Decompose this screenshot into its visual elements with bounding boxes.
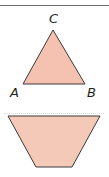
- vertex-label-b: B: [87, 86, 96, 99]
- section-divider: [4, 113, 104, 114]
- trapezoid: [8, 116, 100, 167]
- vertex-label-a: A: [10, 86, 19, 99]
- vertex-label-c: C: [49, 12, 58, 25]
- triangle-abc: [23, 30, 85, 84]
